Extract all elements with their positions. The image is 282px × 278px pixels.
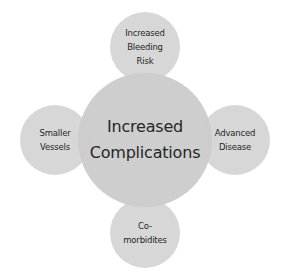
satellite-label-right: Advanced Disease — [215, 126, 255, 154]
bottom-label-line-2: morbidites — [123, 233, 166, 247]
satellite-label-bottom: Co- morbidites — [123, 219, 166, 247]
top-label-line-3: Risk — [125, 54, 165, 68]
satellite-circle-comorbidities: Co- morbidites — [110, 198, 180, 268]
satellite-circle-bleeding-risk: Increased Bleeding Risk — [110, 12, 180, 82]
right-label-line-1: Advanced — [215, 126, 255, 140]
satellite-circle-advanced-disease: Advanced Disease — [200, 105, 270, 175]
center-label: Increased Complications — [90, 114, 201, 166]
bottom-label-line-1: Co- — [123, 219, 166, 233]
satellite-circle-smaller-vessels: Smaller Vessels — [20, 105, 90, 175]
complications-diagram: Increased Complications Increased Bleedi… — [0, 0, 282, 278]
satellite-label-left: Smaller Vessels — [40, 126, 71, 154]
top-label-line-1: Increased — [125, 26, 165, 40]
center-circle-increased-complications: Increased Complications — [78, 73, 212, 207]
top-label-line-2: Bleeding — [125, 40, 165, 54]
center-label-line-2: Complications — [90, 140, 201, 166]
satellite-label-top: Increased Bleeding Risk — [125, 26, 165, 68]
left-label-line-2: Vessels — [40, 140, 71, 154]
center-label-line-1: Increased — [90, 114, 201, 140]
right-label-line-2: Disease — [215, 140, 255, 154]
left-label-line-1: Smaller — [40, 126, 71, 140]
